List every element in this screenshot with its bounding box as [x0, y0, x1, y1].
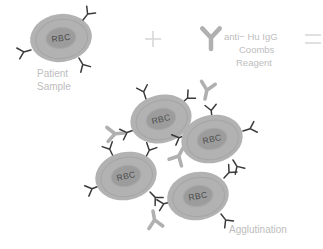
antibody-y-icon — [198, 81, 215, 100]
equals-sign-icon — [305, 35, 321, 43]
antibody-y-icon — [241, 122, 257, 137]
patient-sample-group: RBC Patient Sample — [17, 6, 96, 92]
reagent-label-line3: Reagent — [236, 57, 272, 68]
coombs-reagent-group: anti− Hu IgG Coombs Reagent — [202, 28, 277, 68]
cluster-rbc-cell: RBC — [157, 164, 237, 227]
agglutination-cluster: RBC RBC — [85, 81, 287, 235]
antibody-y-icon — [107, 126, 125, 141]
antibody-y-icon — [17, 45, 33, 59]
antibody-y-icon — [220, 164, 237, 181]
patient-sample-label-line2: Sample — [37, 81, 71, 92]
plus-sign-icon — [145, 31, 161, 47]
agglutination-label: Agglutination — [229, 224, 287, 235]
reagent-label-line2: Coombs — [239, 44, 275, 55]
antibody-y-icon — [146, 210, 163, 229]
agglutination-diagram: RBC Patient Sample anti− Hu IgG Coombs R… — [0, 0, 323, 249]
antibody-y-icon — [202, 28, 220, 49]
figure-canvas: RBC Patient Sample anti− Hu IgG Coombs R… — [0, 0, 323, 249]
reagent-label-line1: anti− Hu IgG — [224, 31, 278, 42]
patient-sample-label-line1: Patient — [37, 68, 68, 79]
cluster-rbc-cell: RBC — [85, 142, 164, 206]
